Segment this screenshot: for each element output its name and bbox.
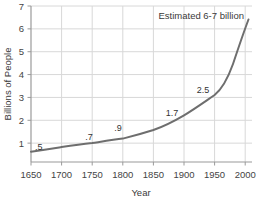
plot-area-background	[31, 6, 252, 162]
data-label-1-7: 1.7	[166, 108, 179, 118]
y-tick-label-6: 6	[19, 23, 24, 34]
x-tick-label-1650: 1650	[20, 169, 41, 180]
data-label-0-7: .7	[85, 132, 93, 142]
data-label-0-5: .5	[35, 142, 43, 152]
x-tick-label-1950: 1950	[204, 169, 225, 180]
x-axis-tick-labels: 1650 1700 1750 1800 1850 1900 1950 2000	[20, 169, 255, 180]
x-tick-label-1850: 1850	[143, 169, 164, 180]
y-axis-title: Billions of People	[2, 48, 13, 121]
x-axis-title: Year	[131, 187, 150, 198]
estimate-annotation: Estimated 6-7 billion	[158, 10, 244, 21]
x-tick-label-2000: 2000	[235, 169, 256, 180]
data-label-0-9: .9	[114, 123, 122, 133]
y-tick-label-5: 5	[19, 46, 24, 57]
x-tick-label-1750: 1750	[82, 169, 103, 180]
y-tick-label-4: 4	[19, 69, 24, 80]
y-tick-label-1: 1	[19, 138, 24, 149]
y-tick-label-3: 3	[19, 92, 24, 103]
chart-canvas: 7 6 5 4 3 2 1 1650 1700 1750 1800 1850 1…	[0, 0, 256, 202]
x-tick-label-1700: 1700	[51, 169, 72, 180]
y-tick-label-2: 2	[19, 115, 24, 126]
x-tick-label-1800: 1800	[112, 169, 133, 180]
population-growth-chart: 7 6 5 4 3 2 1 1650 1700 1750 1800 1850 1…	[0, 0, 256, 202]
data-label-2-5: 2.5	[197, 85, 210, 95]
x-tick-label-1900: 1900	[173, 169, 194, 180]
y-axis-tick-labels: 7 6 5 4 3 2 1	[19, 1, 24, 149]
y-tick-label-7: 7	[19, 1, 24, 12]
